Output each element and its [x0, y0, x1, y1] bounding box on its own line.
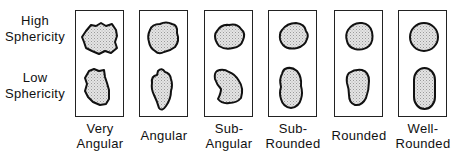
column-label-line2: Rounded: [324, 128, 394, 143]
column-label-line2: Angular: [65, 136, 135, 151]
grain-low-sphericity: [414, 68, 435, 109]
row-label-high-sphericity: High Sphericity: [2, 13, 68, 45]
row-label-line1: High: [2, 13, 68, 29]
grain-high-sphericity: [82, 23, 117, 54]
row-label-low-sphericity: Low Sphericity: [2, 70, 68, 102]
column-label-angular: Angular: [129, 128, 199, 143]
column-label-rounded: Rounded: [324, 128, 394, 143]
grain-high-sphericity: [280, 23, 308, 49]
column-label-line1: Sub-: [258, 121, 328, 136]
column-label-sub-rounded: Sub- Rounded: [258, 121, 328, 151]
grain-frame-well-rounded: [398, 10, 447, 117]
grain-low-sphericity: [215, 70, 242, 103]
column-label-line2: Rounded: [258, 136, 328, 151]
column-label-well-rounded: Well- Rounded: [388, 121, 454, 151]
grain-low-sphericity: [280, 68, 302, 108]
grain-frame-angular: [139, 10, 188, 117]
column-label-line2: Angular: [129, 128, 199, 143]
grain-high-sphericity: [215, 25, 244, 49]
grain-high-sphericity: [410, 23, 438, 51]
row-label-line1: Low: [2, 70, 68, 86]
grain-frame-sub-rounded: [268, 10, 317, 117]
grain-low-sphericity: [85, 69, 109, 105]
column-label-line2: Rounded: [388, 136, 454, 151]
column-label-line1: Sub-: [194, 121, 264, 136]
column-label-very-angular: Very Angular: [65, 121, 135, 151]
grain-frame-sub-angular: [204, 10, 253, 117]
row-label-line2: Sphericity: [2, 29, 68, 45]
grain-high-sphericity: [346, 23, 372, 50]
row-label-line2: Sphericity: [2, 86, 68, 102]
column-label-line2: Angular: [194, 136, 264, 151]
column-label-sub-angular: Sub- Angular: [194, 121, 264, 151]
column-label-line1: Very: [65, 121, 135, 136]
grain-frame-very-angular: [75, 10, 124, 117]
grain-frame-rounded: [334, 10, 383, 117]
grain-low-sphericity: [152, 69, 172, 109]
column-label-line1: Well-: [388, 121, 454, 136]
grain-low-sphericity: [347, 70, 369, 105]
grain-high-sphericity: [148, 23, 178, 54]
